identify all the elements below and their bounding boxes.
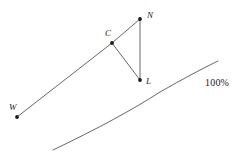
point-label-c: C [105, 28, 112, 38]
diagram-canvas: W C N L 100% [0, 0, 251, 162]
point-dot-c [110, 41, 114, 45]
point-dot-l [138, 78, 142, 82]
point-label-l: L [145, 76, 151, 86]
curve-label-100-percent: 100% [205, 77, 229, 88]
point-dot-w [15, 115, 19, 119]
point-dot-n [138, 17, 142, 21]
point-label-n: N [146, 10, 154, 20]
